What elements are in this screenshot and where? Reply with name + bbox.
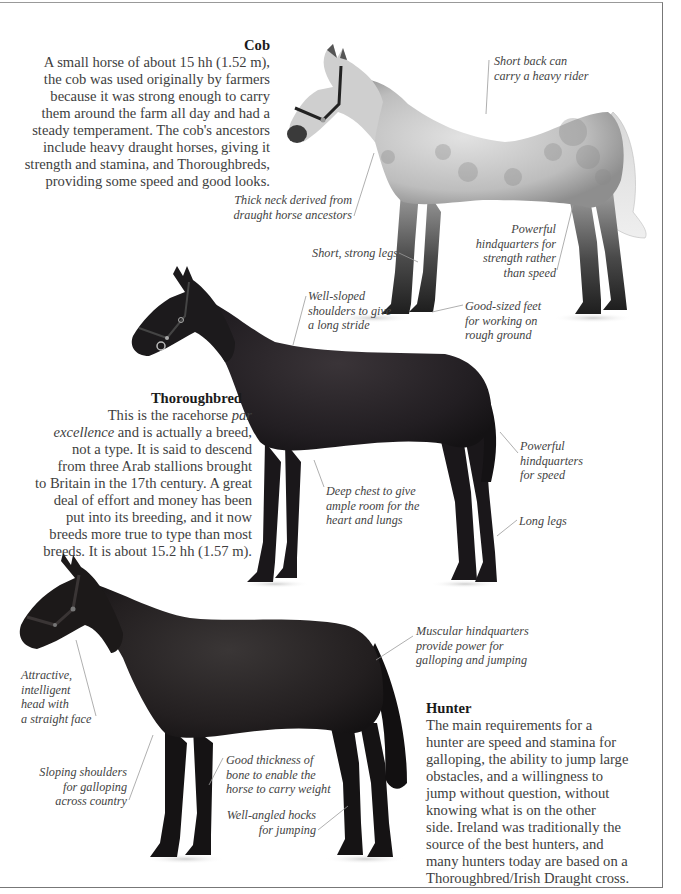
cob-description: A small horse of about 15 hh (1.52 m), t… (12, 54, 270, 190)
hunter-caption-hindquarters: Muscular hindquarters provide power for … (416, 624, 529, 668)
thoroughbred-caption-shoulders: Well-sloped shoulders to give a long str… (308, 289, 391, 333)
cob-caption-legs: Short, strong legs (290, 246, 398, 261)
thoroughbred-caption-legs: Long legs (519, 514, 567, 529)
hunter-description: The main requirements for a hunter are s… (426, 717, 666, 887)
hunter-caption-hocks: Well-angled hocks for jumping (210, 808, 316, 837)
hunter-heading: Hunter (426, 700, 666, 717)
hunter-caption-shoulders: Sloping shoulders for galloping across c… (20, 765, 127, 809)
cob-caption-back: Short back can carry a heavy rider (494, 54, 588, 83)
thoroughbred-description: This is the racehorse par excellence and… (12, 407, 252, 560)
hunter-caption-head: Attractive, intelligent head with a stra… (21, 668, 91, 726)
cob-heading: Cob (12, 37, 270, 54)
cob-caption-neck: Thick neck derived from draught horse an… (210, 193, 352, 222)
thoroughbred-heading: Thoroughbred (12, 390, 252, 407)
hunter-text-block: Hunter The main requirements for a hunte… (426, 700, 666, 887)
thoroughbred-text-block: Thoroughbred This is the racehorse par e… (12, 390, 252, 560)
cob-text-block: Cob A small horse of about 15 hh (1.52 m… (12, 37, 270, 190)
hunter-caption-bone: Good thickness of bone to enable the hor… (226, 753, 331, 797)
thoroughbred-caption-chest: Deep chest to give ample room for the he… (326, 484, 419, 528)
thoroughbred-caption-hindquarters: Powerful hindquarters for speed (520, 439, 583, 483)
